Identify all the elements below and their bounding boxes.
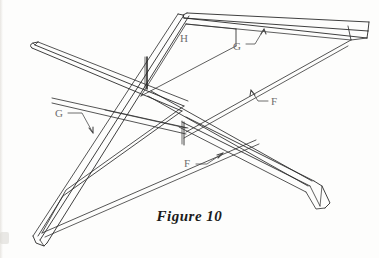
leader-g-left (68, 113, 93, 133)
arrowhead-f-lower (217, 153, 223, 158)
arrowhead-g-left (89, 127, 93, 133)
label-g-left: G (55, 107, 63, 119)
label-h: H (180, 32, 188, 44)
label-f-right: F (271, 95, 278, 107)
stretcher-lower-right (179, 117, 330, 209)
left-upper-arm (30, 42, 188, 111)
figure-page: H G G F F Figure 10 (0, 0, 379, 258)
label-f-lower: F (184, 157, 191, 169)
figure-caption: Figure 10 (0, 208, 379, 225)
label-g-upper-right: G (233, 40, 241, 52)
